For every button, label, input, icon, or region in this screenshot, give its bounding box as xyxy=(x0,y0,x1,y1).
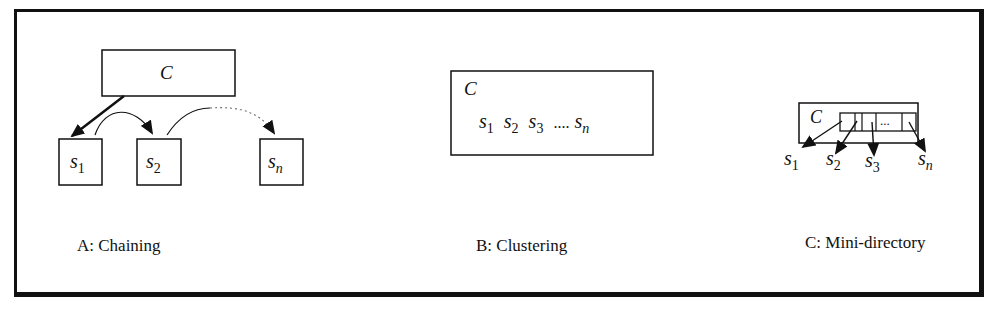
caption-c: C: Mini-directory xyxy=(805,233,925,253)
label-s2: s2 xyxy=(146,150,161,177)
label-c: C xyxy=(810,107,822,128)
caption-a: A: Chaining xyxy=(77,236,161,256)
arrow-s2-chain-solid xyxy=(167,108,210,135)
cluster-items: s1 s2 s3 .... sn xyxy=(479,110,589,137)
caption-b: B: Clustering xyxy=(476,236,567,256)
label-c: C xyxy=(464,78,477,100)
label-sn: sn xyxy=(268,150,283,177)
label-s1: s1 xyxy=(784,147,799,174)
arrow-s1-to-s2 xyxy=(95,112,152,135)
panel-a-chaining xyxy=(59,50,303,185)
arrow-c-to-s1 xyxy=(72,96,124,136)
label-sn: sn xyxy=(918,147,933,174)
label-c: C xyxy=(160,62,173,84)
label-s3: s3 xyxy=(865,149,880,176)
label-s2: s2 xyxy=(826,147,841,174)
label-s1: s1 xyxy=(70,150,85,177)
directory-ellipsis: ... xyxy=(880,113,890,129)
arrow-s2-to-sn-dotted xyxy=(210,108,274,133)
